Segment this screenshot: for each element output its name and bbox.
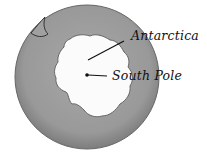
antarctica-label: Antarctica [131,28,199,43]
south-pole-label: South Pole [112,68,182,83]
diagram: Antarctica South Pole [0,0,207,156]
